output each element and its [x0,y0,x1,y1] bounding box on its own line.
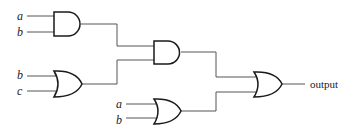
label-and1-input-a: a [17,9,23,23]
input-wires [27,16,157,118]
label-and1-input-b: b [17,25,23,39]
or-gate-1 [54,71,82,97]
logic-circuit-diagram: a b b c a b output [0,0,353,134]
interconnect-wires [81,24,305,111]
label-or2-input-b: b [116,113,122,127]
and-gate-2 [154,41,180,64]
label-output: output [310,78,338,90]
or-gate-2 [154,99,181,124]
label-or2-input-a: a [116,97,122,111]
and-gate-1 [54,12,80,36]
label-or1-input-b: b [17,68,23,82]
label-or1-input-c: c [17,84,23,98]
or-gate-3 [254,72,282,97]
